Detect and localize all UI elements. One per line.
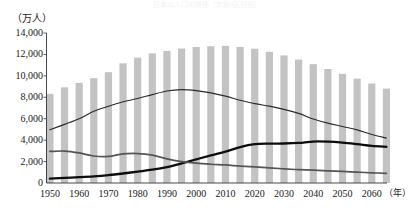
bar xyxy=(280,55,287,183)
line-series xyxy=(50,141,387,178)
bar xyxy=(251,49,258,183)
bar xyxy=(339,74,346,183)
bar xyxy=(163,51,170,183)
bar xyxy=(46,94,53,183)
bar xyxy=(310,64,317,183)
bar xyxy=(61,87,68,183)
bar xyxy=(383,89,390,183)
bar xyxy=(207,46,214,183)
bar xyxy=(149,53,156,183)
bar xyxy=(76,83,83,183)
bar xyxy=(222,46,229,183)
line-series-group xyxy=(50,90,387,179)
bar xyxy=(119,63,126,183)
bar xyxy=(134,58,141,183)
bar xyxy=(295,60,302,183)
bar xyxy=(90,78,97,183)
bar xyxy=(105,72,112,183)
bar xyxy=(237,47,244,183)
bar xyxy=(266,52,273,183)
line-series xyxy=(50,90,387,139)
bar xyxy=(324,69,331,183)
plot-area xyxy=(0,0,414,208)
population-chart: 日本の人口の推移（年齢3区分別） （万人） 02,0004,0006,0008,… xyxy=(0,0,414,208)
bar-series-total-population xyxy=(46,46,390,183)
